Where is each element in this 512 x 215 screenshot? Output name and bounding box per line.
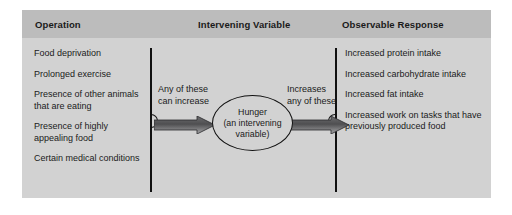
diagram-figure: Operation Intervening Variable Observabl…: [22, 10, 491, 198]
oval-label: Hunger (an intervening variable): [223, 107, 281, 140]
list-item: Increased carbohydrate intake: [345, 69, 485, 81]
column-title-observable-response: Observable Response: [342, 19, 444, 30]
left-arrow-label: Any of these can increase: [158, 84, 209, 107]
intervening-variable-oval: Hunger (an intervening variable): [212, 95, 293, 151]
right-arrow-label: Increases any of these: [287, 84, 336, 107]
list-item: Presence of highly appealing food: [34, 121, 149, 144]
observable-response-item-list: Increased protein intake Increased carbo…: [345, 48, 485, 142]
column-title-intervening-variable: Intervening Variable: [198, 19, 290, 30]
list-item: Increased work on tasks that have previo…: [345, 110, 485, 133]
list-item: Certain medical conditions: [34, 153, 149, 165]
column-title-operation: Operation: [35, 19, 81, 30]
list-item: Food deprivation: [34, 48, 149, 60]
list-item: Prolonged exercise: [34, 69, 149, 81]
list-item: Increased fat intake: [345, 89, 485, 101]
list-item: Increased protein intake: [345, 48, 485, 60]
arrow-right-icon: [288, 116, 350, 134]
arrow-left-icon: [154, 116, 216, 134]
operation-item-list: Food deprivation Prolonged exercise Pres…: [34, 48, 149, 174]
list-item: Presence of other animals that are eatin…: [34, 89, 149, 112]
